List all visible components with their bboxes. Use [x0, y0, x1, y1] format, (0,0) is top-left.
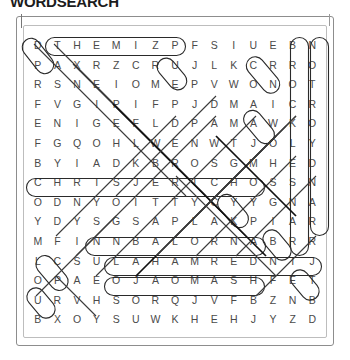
grid-cell[interactable]: I — [283, 252, 303, 272]
grid-cell[interactable]: S — [106, 291, 126, 311]
grid-cell[interactable]: C — [28, 173, 48, 193]
grid-cell[interactable]: I — [106, 75, 126, 95]
grid-cell[interactable]: U — [87, 252, 107, 272]
grid-cell[interactable]: X — [67, 56, 87, 76]
grid-cell[interactable]: O — [244, 75, 264, 95]
grid-cell[interactable]: F — [263, 271, 283, 291]
grid-cell[interactable]: A — [244, 114, 264, 134]
grid-cell[interactable]: T — [302, 271, 322, 291]
grid-cell[interactable]: S — [224, 271, 244, 291]
grid-cell[interactable]: F — [146, 95, 166, 115]
grid-cell[interactable]: A — [67, 271, 87, 291]
grid-cell[interactable]: L — [204, 56, 224, 76]
grid-cell[interactable]: M — [244, 154, 264, 174]
grid-cell[interactable]: D — [204, 95, 224, 115]
grid-cell[interactable]: B — [28, 310, 48, 330]
grid-cell[interactable]: Q — [67, 134, 87, 154]
grid-cell[interactable]: N — [224, 232, 244, 252]
grid-cell[interactable]: E — [87, 75, 107, 95]
grid-cell[interactable]: M — [185, 252, 205, 272]
grid-cell[interactable]: S — [204, 154, 224, 174]
grid-cell[interactable]: E — [283, 154, 303, 174]
grid-cell[interactable]: U — [126, 310, 146, 330]
grid-cell[interactable]: E — [204, 310, 224, 330]
grid-cell[interactable]: E — [146, 173, 166, 193]
grid-cell[interactable]: J — [185, 95, 205, 115]
grid-cell[interactable]: R — [67, 173, 87, 193]
grid-cell[interactable]: F — [28, 95, 48, 115]
grid-cell[interactable]: R — [283, 56, 303, 76]
grid-cell[interactable]: I — [224, 36, 244, 56]
grid-cell[interactable]: R — [263, 56, 283, 76]
grid-cell[interactable]: N — [67, 193, 87, 213]
grid-cell[interactable]: E — [224, 252, 244, 272]
grid-cell[interactable]: D — [302, 154, 322, 174]
grid-cell[interactable]: N — [263, 252, 283, 272]
grid-cell[interactable]: R — [165, 154, 185, 174]
grid-cell[interactable]: L — [165, 232, 185, 252]
grid-cell[interactable]: I — [185, 173, 205, 193]
grid-cell[interactable]: B — [28, 154, 48, 174]
grid-cell[interactable]: I — [126, 95, 146, 115]
grid-cell[interactable]: H — [146, 252, 166, 272]
grid-cell[interactable]: L — [146, 114, 166, 134]
grid-cell[interactable]: Y — [185, 193, 205, 213]
grid-cell[interactable]: E — [106, 114, 126, 134]
grid-cell[interactable]: Z — [146, 36, 166, 56]
grid-cell[interactable]: M — [185, 271, 205, 291]
grid-cell[interactable]: A — [204, 212, 224, 232]
grid-cell[interactable]: C — [204, 193, 224, 213]
grid-cell[interactable]: O — [283, 75, 303, 95]
grid-cell[interactable]: B — [244, 291, 264, 311]
grid-cell[interactable]: E — [263, 36, 283, 56]
grid-cell[interactable]: N — [263, 75, 283, 95]
grid-cell[interactable]: Y — [67, 212, 87, 232]
grid-cell[interactable]: M — [106, 36, 126, 56]
grid-cell[interactable]: O — [126, 75, 146, 95]
grid-cell[interactable]: P — [106, 95, 126, 115]
grid-cell[interactable]: M — [146, 75, 166, 95]
grid-cell[interactable]: O — [244, 173, 264, 193]
grid-cell[interactable]: P — [48, 271, 68, 291]
grid-cell[interactable]: L — [106, 252, 126, 272]
grid-cell[interactable]: E — [28, 114, 48, 134]
grid-cell[interactable]: S — [87, 212, 107, 232]
grid-cell[interactable]: L — [283, 134, 303, 154]
grid-cell[interactable]: Y — [87, 310, 107, 330]
grid-cell[interactable]: F — [224, 291, 244, 311]
grid-cell[interactable]: S — [48, 75, 68, 95]
grid-cell[interactable]: Y — [302, 134, 322, 154]
grid-cell[interactable]: B — [146, 154, 166, 174]
grid-cell[interactable]: T — [146, 193, 166, 213]
letter-grid[interactable]: DTHEMIZPFSIUEBNPAXRZCRUJLKCRRORSNEIOMEPV… — [28, 36, 322, 330]
grid-cell[interactable]: Y — [48, 154, 68, 174]
grid-cell[interactable]: J — [244, 310, 264, 330]
grid-cell[interactable]: H — [106, 134, 126, 154]
grid-cell[interactable]: O — [165, 271, 185, 291]
grid-cell[interactable]: K — [224, 56, 244, 76]
grid-cell[interactable]: K — [224, 212, 244, 232]
grid-cell[interactable]: E — [165, 134, 185, 154]
grid-cell[interactable]: O — [28, 193, 48, 213]
grid-cell[interactable]: K — [283, 114, 303, 134]
grid-cell[interactable]: F — [28, 134, 48, 154]
grid-cell[interactable]: V — [48, 95, 68, 115]
grid-cell[interactable]: U — [28, 291, 48, 311]
grid-cell[interactable]: I — [126, 193, 146, 213]
grid-cell[interactable]: Q — [165, 291, 185, 311]
grid-cell[interactable]: O — [302, 114, 322, 134]
grid-cell[interactable]: T — [224, 134, 244, 154]
grid-cell[interactable]: A — [302, 193, 322, 213]
grid-cell[interactable]: F — [185, 36, 205, 56]
grid-cell[interactable]: P — [244, 212, 264, 232]
grid-cell[interactable]: U — [165, 56, 185, 76]
grid-cell[interactable]: O — [263, 134, 283, 154]
grid-cell[interactable]: Y — [263, 310, 283, 330]
grid-cell[interactable]: W — [224, 75, 244, 95]
grid-cell[interactable]: A — [146, 271, 166, 291]
grid-cell[interactable]: N — [302, 36, 322, 56]
grid-cell[interactable]: V — [204, 75, 224, 95]
grid-cell[interactable]: I — [67, 154, 87, 174]
grid-cell[interactable]: P — [185, 75, 205, 95]
grid-cell[interactable]: F — [48, 232, 68, 252]
